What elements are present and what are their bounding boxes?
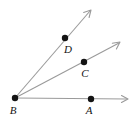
point-label-a: A: [85, 104, 93, 116]
point-d-dot: [62, 35, 68, 41]
point-label-c: C: [81, 67, 89, 79]
point-a-dot: [88, 96, 94, 102]
ray-bd-line: [15, 11, 90, 98]
figure-canvas: B A C D: [0, 0, 135, 123]
ray-ba: [15, 96, 128, 103]
point-c-dot: [81, 59, 87, 65]
point-label-b: B: [10, 104, 17, 116]
point-label-d: D: [63, 43, 72, 55]
ray-ba-line: [15, 98, 127, 99]
point-b-dot: [12, 95, 18, 101]
ray-bd: [15, 10, 91, 98]
geometry-diagram: B A C D: [0, 0, 135, 123]
